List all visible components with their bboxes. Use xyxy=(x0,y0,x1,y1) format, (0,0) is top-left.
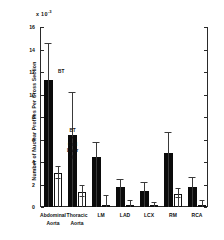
y-axis-exponent-mantissa: x 10 xyxy=(36,11,48,17)
y-axis-tick xyxy=(41,207,44,208)
x-axis-tick-label-line: Aorta xyxy=(40,220,66,228)
series-annotation-line: + xyxy=(67,135,78,142)
y-axis-tick xyxy=(41,50,44,51)
error-bar xyxy=(192,178,193,207)
error-bar xyxy=(202,201,203,207)
series-annotation-line: Cod xyxy=(67,142,78,149)
error-bar-cap xyxy=(103,195,108,196)
y-axis-tick-right xyxy=(204,95,207,96)
y-axis-tick-label: 10 xyxy=(29,92,35,98)
x-axis-tick-label: AbdominalAorta xyxy=(40,212,66,227)
x-axis-tick-label-line: LCX xyxy=(144,212,154,220)
y-axis-tick-label: 12 xyxy=(29,69,35,75)
y-axis-exponent-label: x 10-3 xyxy=(36,9,52,17)
y-axis-tick-label: 14 xyxy=(29,47,35,53)
y-axis-tick-right xyxy=(204,185,207,186)
x-axis-tick-label: LAD xyxy=(120,212,130,220)
x-axis-tick-label: RCA xyxy=(192,212,203,220)
error-bar xyxy=(154,203,155,208)
error-bar xyxy=(130,201,131,207)
series-annotation-line: Oil xyxy=(67,155,78,162)
error-bar-cap xyxy=(127,200,132,201)
error-bar xyxy=(178,189,179,207)
series-annotation-line: Liver xyxy=(67,148,78,155)
x-axis-tick-label-line: Thoracic xyxy=(67,212,88,220)
error-bar xyxy=(144,183,145,207)
x-axis-tick-label-line: LM xyxy=(97,212,104,220)
y-axis-tick-right xyxy=(204,117,207,118)
error-bar-cap xyxy=(199,200,204,201)
error-bar-cap xyxy=(93,142,100,143)
error-bar xyxy=(96,143,97,207)
y-axis-tick-right xyxy=(204,140,207,141)
error-bar-cap xyxy=(45,43,52,44)
series-annotation-line: BT xyxy=(58,69,64,76)
x-axis-tick-label: ThoracicAorta xyxy=(67,212,88,227)
y-axis-right-spine xyxy=(207,27,208,207)
x-axis-tick-label-line: LAD xyxy=(120,212,130,220)
error-bar-cap xyxy=(165,132,172,133)
y-axis-tick-right xyxy=(204,162,207,163)
bar-chart-figure: x 10-3 Number of Nuclear Profiles Per Cr… xyxy=(0,0,224,240)
error-bar xyxy=(168,133,169,207)
error-bar-cap-lower xyxy=(175,197,180,198)
error-bar-cap xyxy=(79,185,84,186)
y-axis-tick-label: 16 xyxy=(29,24,35,30)
y-axis-tick-right xyxy=(204,50,207,51)
error-bar-cap xyxy=(55,166,60,167)
error-bar xyxy=(120,180,121,207)
series-annotation: BT xyxy=(58,69,64,76)
x-axis-tick-label-line: RCA xyxy=(192,212,203,220)
series-annotation-line: BT xyxy=(67,128,78,135)
y-axis-tick-right xyxy=(204,207,207,208)
y-axis-tick-right xyxy=(204,27,207,28)
x-axis-tick-label: LCX xyxy=(144,212,154,220)
y-axis-tick-label: 4 xyxy=(32,159,35,165)
error-bar-cap xyxy=(141,182,148,183)
error-bar-cap xyxy=(69,92,76,93)
y-axis-tick xyxy=(41,72,44,73)
x-axis-tick-label: LM xyxy=(97,212,104,220)
error-bar xyxy=(106,196,107,207)
y-axis-tick xyxy=(41,27,44,28)
y-axis-tick-label: 6 xyxy=(32,137,35,143)
x-axis-tick-label: RM xyxy=(169,212,177,220)
y-axis-tick-label: 2 xyxy=(32,182,35,188)
error-bar-cap xyxy=(189,177,196,178)
y-axis-exponent-power: -3 xyxy=(48,9,52,14)
x-axis-tick-label-line: Aorta xyxy=(67,220,88,228)
error-bar xyxy=(58,167,59,208)
error-bar-cap xyxy=(175,188,180,189)
y-axis-tick-label: 8 xyxy=(32,114,35,120)
series-annotation: BT+CodLiverOil xyxy=(67,128,78,162)
error-bar-cap xyxy=(151,202,156,203)
error-bar-cap xyxy=(117,179,124,180)
y-axis-tick-label: 0 xyxy=(32,204,35,210)
error-bar xyxy=(48,44,49,207)
y-axis-tick-right xyxy=(204,72,207,73)
error-bar-cap-lower xyxy=(79,196,84,197)
error-bar-cap-lower xyxy=(55,178,60,179)
x-axis-tick-label-line: RM xyxy=(169,212,177,220)
x-axis-tick-label-line: Abdominal xyxy=(40,212,66,220)
plot-area: 0246810121416 BTBT+CodLiverOil Abdominal… xyxy=(40,27,208,207)
